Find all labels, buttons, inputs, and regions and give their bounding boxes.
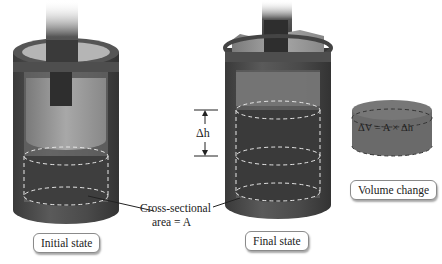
final-state-label: Final state xyxy=(245,231,309,251)
cross-section-label-line1: Cross-sectional xyxy=(140,202,211,214)
volume-change-label: Volume change xyxy=(350,180,437,200)
cross-section-label-line2: area = A xyxy=(152,216,191,228)
final-cylinder xyxy=(225,0,331,219)
initial-cylinder xyxy=(13,0,119,224)
initial-state-label: Initial state xyxy=(33,233,100,253)
delta-h-label: Δh xyxy=(196,126,210,141)
volume-formula: ΔV = A × Δh xyxy=(358,122,413,133)
